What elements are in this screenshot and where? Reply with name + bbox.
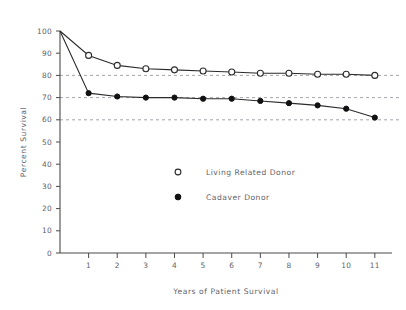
y-tick-label-90: 90: [42, 49, 52, 58]
datapoint-cadaver-donor-year-3: [143, 95, 148, 100]
x-tick-label-6: 6: [229, 261, 234, 270]
x-axis-title: Years of Patient Survival: [172, 287, 278, 296]
x-tick-label-11: 11: [370, 261, 380, 270]
y-axis-title: Percent Survival: [19, 107, 28, 177]
x-axis-ticks: 1234567891011: [86, 253, 380, 270]
y-tick-label-50: 50: [42, 138, 52, 147]
survival-line-chart: 0102030405060708090100 1234567891011 Per…: [0, 0, 406, 310]
datapoint-cadaver-donor-year-4: [172, 95, 177, 100]
y-tick-label-80: 80: [42, 71, 52, 80]
x-tick-label-8: 8: [286, 261, 291, 270]
x-tick-label-9: 9: [315, 261, 320, 270]
y-tick-label-20: 20: [42, 204, 52, 213]
datapoint-living-related-donor-year-10: [343, 71, 349, 77]
chart-figure: 0102030405060708090100 1234567891011 Per…: [0, 0, 406, 310]
datapoint-cadaver-donor-year-5: [201, 96, 206, 101]
y-tick-label-60: 60: [42, 115, 52, 124]
legend-label-cadaver-donor: Cadaver Donor: [206, 193, 270, 202]
legend-label-living-related-donor: Living Related Donor: [206, 168, 296, 177]
datapoint-cadaver-donor-year-6: [229, 96, 234, 101]
datapoint-cadaver-donor-year-7: [258, 98, 263, 103]
datapoint-living-related-donor-year-8: [286, 70, 292, 76]
legend-marker-living-related-donor: [175, 169, 181, 175]
datapoint-living-related-donor-year-9: [315, 71, 321, 77]
datapoint-cadaver-donor-year-11: [372, 115, 377, 120]
y-tick-label-0: 0: [47, 249, 52, 258]
chart-legend: Living Related Donor Cadaver Donor: [175, 168, 296, 202]
axes-group: [60, 31, 392, 253]
series-line-living-related-donor: [60, 31, 375, 75]
datapoint-cadaver-donor-year-2: [115, 94, 120, 99]
datapoint-living-related-donor-year-6: [229, 69, 235, 75]
x-tick-label-4: 4: [172, 261, 177, 270]
datapoint-living-related-donor-year-2: [114, 62, 120, 68]
datapoint-living-related-donor-year-3: [143, 66, 149, 72]
y-tick-label-30: 30: [42, 182, 52, 191]
y-tick-label-70: 70: [42, 93, 52, 102]
datapoint-living-related-donor-year-7: [257, 70, 263, 76]
datapoint-cadaver-donor-year-10: [344, 106, 349, 111]
y-tick-label-100: 100: [37, 27, 52, 36]
y-tick-label-40: 40: [42, 160, 52, 169]
x-tick-label-2: 2: [115, 261, 120, 270]
x-tick-label-3: 3: [143, 261, 148, 270]
y-tick-label-10: 10: [42, 226, 52, 235]
datapoint-living-related-donor-year-11: [372, 72, 378, 78]
datapoint-living-related-donor-year-1: [86, 52, 92, 58]
datapoint-cadaver-donor-year-9: [315, 103, 320, 108]
datapoint-cadaver-donor-year-8: [286, 101, 291, 106]
x-tick-label-10: 10: [341, 261, 351, 270]
x-tick-label-7: 7: [258, 261, 263, 270]
datapoint-living-related-donor-year-5: [200, 68, 206, 74]
datapoint-cadaver-donor-year-1: [86, 91, 91, 96]
legend-marker-cadaver-donor: [175, 194, 181, 200]
x-tick-label-1: 1: [86, 261, 91, 270]
y-axis-ticks: 0102030405060708090100: [37, 27, 60, 258]
datapoint-living-related-donor-year-4: [171, 67, 177, 73]
x-tick-label-5: 5: [201, 261, 206, 270]
